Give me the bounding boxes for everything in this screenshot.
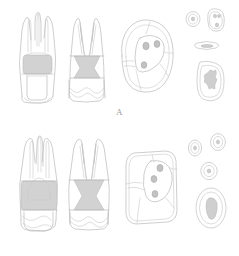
- panel-a-occlusal-view: [122, 20, 174, 92]
- orifice-palatal: [141, 62, 147, 69]
- cross-section-small-oval-right: [211, 134, 226, 151]
- orifice-distobuccal: [154, 41, 160, 48]
- panel-b: B: [0, 128, 239, 256]
- orifice-mesiobuccal: [157, 164, 163, 171]
- panel-b-buccal-view: [20, 136, 58, 231]
- panel-a-cross-sections: [186, 9, 224, 101]
- panel-label-a: A: [0, 107, 239, 117]
- panel-b-occlusal-view: [126, 151, 177, 224]
- panel-a-buccal-view: [20, 12, 56, 103]
- panel-b-illustration: [0, 128, 239, 256]
- cross-section-small-oval-left: [188, 140, 201, 156]
- cross-section-round-mid: [201, 162, 217, 179]
- cross-section-ribbon: [195, 42, 219, 50]
- panel-a: A: [0, 0, 239, 128]
- cross-section-large-oval: [196, 188, 226, 228]
- cross-section-small-round: [186, 12, 200, 27]
- orifice-mesiobuccal: [143, 42, 149, 50]
- panel-b-proximal-view: [69, 139, 110, 230]
- cross-section-large-rounded-rect: [197, 61, 224, 100]
- orifice-palatal: [152, 191, 158, 198]
- orifice-distobuccal: [151, 176, 157, 183]
- figure-root: A: [0, 0, 239, 256]
- panel-a-proximal-view: [69, 18, 105, 102]
- cross-section-hourglass: [208, 9, 225, 31]
- panel-b-cross-sections: [188, 134, 226, 228]
